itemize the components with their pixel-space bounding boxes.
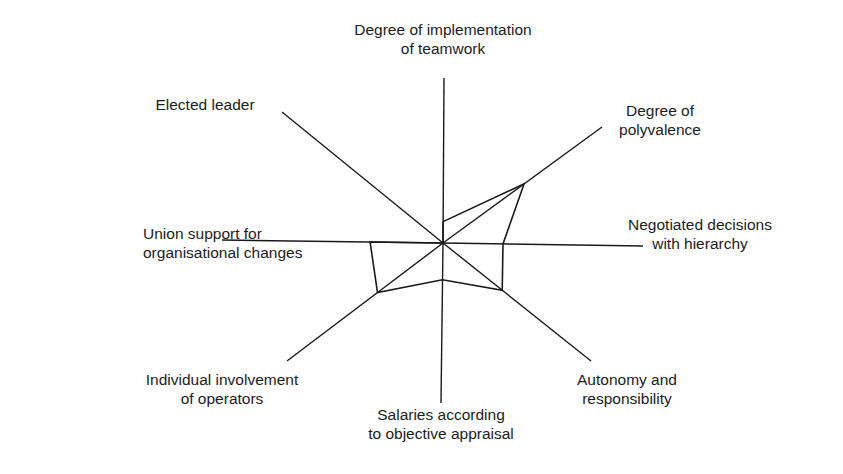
- axis-label-teamwork: Degree of implementation of teamwork: [354, 20, 532, 58]
- label-line: organisational changes: [143, 243, 302, 262]
- label-line: of teamwork: [354, 39, 532, 58]
- radar-axis-line: [443, 78, 444, 243]
- label-line: of operators: [146, 389, 299, 408]
- label-line: with hierarchy: [628, 234, 772, 253]
- radar-axis-line: [443, 243, 591, 361]
- radar-axis-line: [282, 112, 443, 243]
- radar-axis-line: [443, 243, 643, 246]
- label-line: to objective appraisal: [368, 424, 514, 443]
- label-line: Union support for: [143, 224, 302, 243]
- axis-label-autonomy: Autonomy and responsibility: [577, 370, 677, 408]
- label-line: responsibility: [577, 389, 677, 408]
- label-line: Autonomy and: [577, 370, 677, 389]
- radar-axis-line: [287, 243, 443, 361]
- radar-axis-line: [441, 243, 443, 403]
- label-line: Elected leader: [155, 95, 254, 114]
- label-line: Salaries according: [368, 405, 514, 424]
- axis-label-salaries: Salaries according to objective appraisa…: [368, 405, 514, 443]
- axis-label-elected-leader: Elected leader: [155, 95, 254, 114]
- label-line: Individual involvement: [146, 370, 299, 389]
- axis-label-union-support: Union support for organisational changes: [143, 224, 302, 262]
- label-line: polyvalence: [619, 120, 701, 139]
- label-line: Negotiated decisions: [628, 215, 772, 234]
- axis-label-polyvalence: Degree of polyvalence: [619, 101, 701, 139]
- axis-label-individual-involvement: Individual involvement of operators: [146, 370, 299, 408]
- label-line: Degree of: [619, 101, 701, 120]
- axis-label-negotiated-decisions: Negotiated decisions with hierarchy: [628, 215, 772, 253]
- label-line: Degree of implementation: [354, 20, 532, 39]
